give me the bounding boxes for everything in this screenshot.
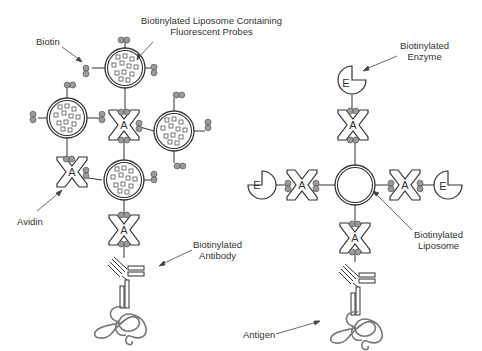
svg-text:E: E: [342, 77, 349, 89]
label-biotinylated-liposome: Biotinylated Liposome: [414, 229, 463, 251]
enzyme-right: [434, 171, 462, 199]
left-antibody: [108, 257, 144, 308]
liposome-empty-center: [335, 165, 375, 205]
label-avidin: Avidin: [17, 216, 43, 227]
diagram-canvas: A A A: [0, 0, 482, 351]
avidin-glyph: A: [120, 224, 128, 236]
right-antibody: [339, 264, 375, 315]
liposome-probes-right: [154, 111, 194, 151]
svg-text:E: E: [253, 179, 260, 191]
right-antigen: [331, 312, 382, 350]
svg-text:A: A: [349, 119, 357, 131]
label-antibody: Biotinylated Antibody: [193, 239, 242, 261]
enzyme-left: [248, 171, 276, 199]
avidin-glyph: A: [68, 166, 76, 178]
svg-text:A: A: [298, 179, 306, 191]
label-biotin: Biotin: [36, 36, 60, 47]
liposome-probes-bottom: [104, 160, 144, 200]
svg-text:A: A: [401, 179, 409, 191]
label-liposome-probes: Biotinylated Liposome Containing Fluores…: [141, 15, 282, 37]
svg-text:E: E: [439, 180, 446, 192]
label-enzyme: Biotinylated Enzyme: [400, 40, 449, 62]
label-antigen: Antigen: [243, 329, 275, 340]
avidin-glyph: A: [120, 119, 128, 131]
svg-text:A: A: [351, 232, 359, 244]
liposome-probes-left: [47, 98, 87, 138]
left-antigen: [95, 307, 146, 345]
